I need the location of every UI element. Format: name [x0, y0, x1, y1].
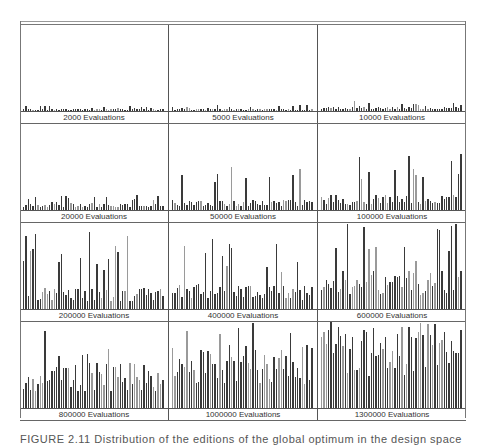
histogram-bar: [217, 174, 218, 210]
histogram-plot: [169, 25, 317, 112]
histogram-bar: [451, 226, 452, 309]
histogram-bar: [460, 154, 461, 210]
histogram-bar: [35, 110, 36, 111]
panel-label: 600000 Evaluations: [318, 310, 466, 321]
histogram-bar: [262, 298, 263, 309]
histogram-bar: [186, 205, 187, 210]
histogram-bar: [338, 327, 339, 408]
panel-label: 100000 Evaluations: [318, 211, 466, 222]
histogram-bar: [193, 205, 194, 210]
histogram-bar: [420, 109, 421, 111]
histogram-bar: [281, 206, 282, 210]
histogram-bar: [264, 355, 265, 408]
histogram-bar: [28, 377, 29, 408]
histogram-bar: [368, 103, 369, 111]
histogram-bar: [283, 286, 284, 309]
histogram-bar: [245, 346, 246, 408]
histogram-bar: [106, 197, 107, 210]
histogram-bar: [345, 204, 346, 210]
histogram-bar: [321, 337, 322, 408]
histogram-bar: [397, 107, 398, 111]
histogram-plot: [318, 25, 466, 112]
histogram-bar: [262, 110, 263, 111]
histogram-bar: [363, 227, 364, 309]
histogram-bar: [264, 109, 265, 111]
histogram-bar: [233, 110, 234, 111]
histogram-bar: [455, 353, 456, 408]
histogram-bar: [453, 351, 454, 408]
histogram-bar: [401, 327, 402, 408]
histogram-bar: [439, 109, 440, 111]
histogram-bar: [49, 106, 50, 111]
histogram-bar: [368, 172, 369, 210]
histogram-bars: [23, 322, 165, 408]
histogram-bar: [385, 108, 386, 111]
histogram-bar: [299, 169, 300, 210]
histogram-bar: [342, 109, 343, 111]
histogram-bar: [91, 289, 92, 309]
histogram-bar: [56, 109, 57, 111]
histogram-bar: [42, 383, 43, 408]
histogram-bar: [73, 380, 74, 408]
histogram-bar: [349, 109, 350, 111]
histogram-bars: [321, 25, 463, 111]
histogram-bar: [245, 178, 246, 210]
histogram-bar: [30, 109, 31, 111]
histogram-bar: [269, 109, 270, 111]
histogram-panel: 5000 Evaluations: [169, 25, 318, 123]
histogram-bar: [229, 107, 230, 111]
histogram-bar: [418, 284, 419, 309]
histogram-bar: [264, 205, 265, 210]
histogram-grid: 2000 Evaluations5000 Evaluations10000 Ev…: [20, 25, 466, 421]
histogram-bar: [113, 109, 114, 111]
histogram-bar: [288, 200, 289, 210]
histogram-bar: [222, 256, 223, 309]
histogram-bar: [288, 109, 289, 111]
histogram-bar: [99, 204, 100, 210]
panel-label: 1000000 Evaluations: [169, 409, 317, 420]
histogram-bar: [285, 298, 286, 309]
histogram-bar: [153, 200, 154, 210]
histogram-bar: [30, 204, 31, 210]
histogram-bar: [37, 205, 38, 210]
histogram-bar: [172, 293, 173, 309]
histogram-bar: [212, 206, 213, 210]
histogram-bar: [437, 229, 438, 309]
histogram-bar: [217, 293, 218, 309]
histogram-bar: [54, 110, 55, 111]
histogram-bar: [132, 384, 133, 408]
histogram-bar: [281, 350, 282, 408]
histogram-bar: [203, 292, 204, 309]
histogram-bar: [49, 380, 50, 408]
histogram-bar: [229, 244, 230, 309]
histogram-bar: [304, 286, 305, 309]
histogram-bar: [306, 345, 307, 408]
histogram-bar: [210, 354, 211, 408]
histogram-bar: [382, 349, 383, 408]
histogram-bar: [132, 200, 133, 210]
histogram-bar: [354, 202, 355, 210]
histogram-panel: 2000 Evaluations: [20, 25, 169, 123]
histogram-bar: [162, 109, 163, 111]
histogram-bar: [366, 204, 367, 210]
histogram-bar: [283, 109, 284, 111]
histogram-bar: [177, 205, 178, 210]
histogram-bar: [184, 203, 185, 210]
histogram-bar: [385, 277, 386, 310]
histogram-bar: [354, 286, 355, 309]
histogram-bar: [271, 291, 272, 309]
histogram-bar: [328, 198, 329, 210]
histogram-bar: [82, 110, 83, 111]
histogram-bar: [87, 354, 88, 408]
histogram-bar: [333, 353, 334, 408]
histogram-bar: [356, 280, 357, 309]
histogram-bar: [113, 206, 114, 210]
histogram-bar: [224, 291, 225, 309]
histogram-bar: [108, 110, 109, 111]
histogram-bar: [250, 107, 251, 111]
histogram-bar: [437, 365, 438, 408]
histogram-bar: [285, 356, 286, 408]
histogram-bar: [108, 205, 109, 210]
histogram-bar: [297, 368, 298, 408]
histogram-bar: [335, 195, 336, 210]
